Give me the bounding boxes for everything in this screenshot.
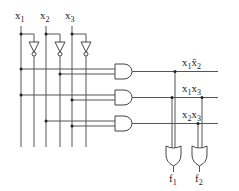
inverter-x1 [29,42,39,56]
junction-dot [71,99,74,102]
input-label-x1: x1 [15,9,25,24]
junction-dot [20,94,23,97]
junction-dot [174,70,177,73]
or-gate-f1 [166,146,181,166]
wire-x2-to-inv [46,34,60,42]
wire-x3-to-inv [72,34,86,42]
junction-dot [45,120,48,123]
junction-dot [20,68,23,71]
term-label-2: x1x3 [182,82,201,97]
junction-dot [201,96,204,99]
term-label-1: x1x̄2 [182,56,201,71]
inverter-x2 [55,42,65,56]
and-gate-1 [115,64,132,79]
output-label-f2: f2 [195,172,203,187]
junction-dot [71,125,74,128]
junction-dot [59,73,62,76]
junction-dot [45,33,48,36]
inverter-x3 [81,42,91,56]
input-label-x3: x3 [65,9,75,24]
junction-dot [71,33,74,36]
input-label-x2: x2 [40,9,50,24]
or-gate-f2 [192,146,207,166]
junction-dot [171,96,174,99]
term-label-3: x2x3 [182,108,201,123]
output-label-f1: f1 [169,172,177,187]
and-gate-3 [115,116,132,131]
junction-dot [197,122,200,125]
and-gate-2 [115,90,132,105]
wire-x1-to-inv [21,34,34,42]
junction-dot [20,33,23,36]
logic-circuit-diagram: x1 x2 x3 x1x̄2 [0,0,239,191]
